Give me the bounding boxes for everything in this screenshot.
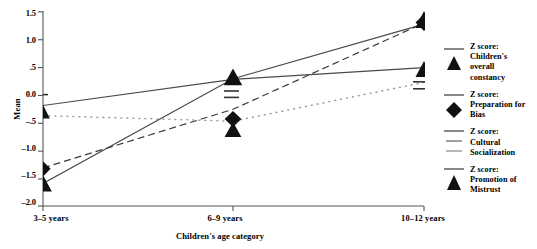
legend-entry-overall-constancy: Z score: Children's overall constancy	[443, 42, 537, 83]
legend-label-line: Socialization	[470, 148, 537, 158]
legend-label: Z score: Cultural Socialization	[470, 127, 537, 158]
legend-label: Z score: Preparation for Bias	[470, 90, 537, 121]
legend-label-line: Bias	[470, 110, 537, 120]
data-point-marker-diamond	[225, 111, 242, 127]
legend-label-line: Promotion of	[470, 175, 537, 185]
legend-label-line: Preparation for	[470, 100, 537, 110]
legend-entry-promotion-of-mistrust: Z score: Promotion of Mistrust	[443, 165, 537, 196]
legend-label-line: Children's	[470, 52, 537, 62]
x-tick-marks	[43, 206, 424, 211]
legend-entry-cultural-socialization: Z score: Cultural Socialization	[443, 127, 537, 158]
data-point-marker-diamond	[416, 14, 433, 31]
data-point-marker-diamond	[35, 161, 50, 176]
series-line-preparation-for-bias	[43, 23, 424, 168]
legend-key-solid-triangle	[443, 42, 467, 76]
legend-label-line: Z score:	[470, 42, 537, 52]
legend-label-line: Mistrust	[470, 185, 537, 195]
legend-key-solid-triangle	[443, 165, 467, 199]
legend-label-line: Z score:	[470, 165, 537, 175]
legend-key-solid-diamond	[443, 90, 467, 124]
legend-label-line: constancy	[470, 73, 537, 83]
chart-legend: Z score: Children's overall constancy Z …	[443, 42, 537, 203]
chart-figure: Mean 1.5 1.0 .5 0.0 –.5 –1.0 –1.5 –2.0 3…	[0, 0, 537, 249]
series-line-promotion-of-mistrust	[43, 24, 424, 183]
data-point-marker-triangle	[36, 105, 50, 119]
legend-key-dotted-line	[443, 127, 467, 161]
legend-entry-preparation-for-bias: Z score: Preparation for Bias	[443, 90, 537, 121]
legend-label: Z score: Promotion of Mistrust	[470, 165, 537, 196]
y-tick-marks	[38, 12, 43, 206]
data-point-marker-triangle	[34, 175, 52, 192]
legend-label-line: Z score:	[470, 90, 537, 100]
legend-label-line: Cultural	[470, 138, 537, 148]
legend-label: Z score: Children's overall constancy	[470, 42, 537, 83]
legend-label-line: overall	[470, 62, 537, 72]
data-point-marker-triangle	[416, 61, 433, 77]
legend-label-line: Z score:	[470, 127, 537, 137]
